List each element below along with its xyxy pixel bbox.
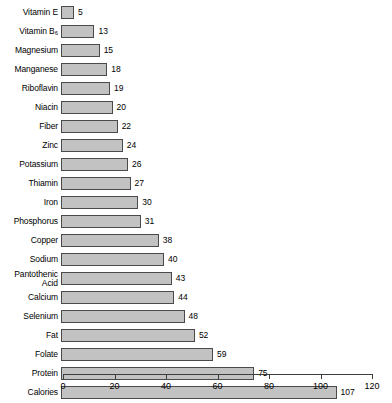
- chart-row: Fiber22: [0, 117, 392, 136]
- chart-row: Niacin20: [0, 98, 392, 117]
- category-label: Phosphorus: [0, 217, 61, 226]
- bar-track: 19: [61, 79, 392, 98]
- x-axis-tick-label: 80: [264, 381, 274, 391]
- bar-track: 18: [61, 60, 392, 79]
- bar-value-label: 19: [110, 82, 123, 95]
- bar-track: 48: [61, 307, 392, 326]
- bar-track: 20: [61, 98, 392, 117]
- bar-value-label: 59: [213, 348, 226, 361]
- category-label: Zinc: [0, 141, 61, 150]
- chart-row: Zinc24: [0, 136, 392, 155]
- chart-row: Thiamin27: [0, 174, 392, 193]
- category-label: Calories: [0, 388, 61, 397]
- bar-track: 43: [61, 269, 392, 288]
- bar-track: 27: [61, 174, 392, 193]
- bar-value-label: 107: [337, 386, 355, 399]
- bar-value-label: 24: [123, 139, 136, 152]
- bar-value-label: 20: [113, 101, 126, 114]
- category-label: Riboflavin: [0, 84, 61, 93]
- category-label: Protein: [0, 369, 61, 378]
- bar: [61, 196, 138, 209]
- chart-row: Sodium40: [0, 250, 392, 269]
- category-label: Copper: [0, 236, 61, 245]
- x-axis-tick-label: 100: [313, 381, 328, 391]
- bar-value-label: 52: [195, 329, 208, 342]
- bar-track: 59: [61, 345, 392, 364]
- category-label: Fiber: [0, 122, 61, 131]
- category-label: Calcium: [0, 293, 61, 302]
- bar-value-label: 22: [118, 120, 131, 133]
- chart-row: Selenium48: [0, 307, 392, 326]
- bar-value-label: 48: [185, 310, 198, 323]
- bar: [61, 139, 123, 152]
- bar-track: 52: [61, 326, 392, 345]
- category-label: Niacin: [0, 103, 61, 112]
- bar-value-label: 5: [74, 6, 83, 19]
- chart-row: Iron30: [0, 193, 392, 212]
- x-axis-tick-label: 120: [364, 381, 379, 391]
- bar-track: 31: [61, 212, 392, 231]
- bar-track: 44: [61, 288, 392, 307]
- category-label: Sodium: [0, 255, 61, 264]
- category-label: Thiamin: [0, 179, 61, 188]
- bar: [61, 158, 128, 171]
- category-label: Pantothenic Acid: [0, 270, 61, 288]
- bar-value-label: 40: [164, 253, 177, 266]
- category-label: Iron: [0, 198, 61, 207]
- chart-rows: Vitamin E5Vitamin B₆13Magnesium15Mangane…: [0, 3, 392, 402]
- bar: [61, 215, 141, 228]
- x-axis-tick: [63, 374, 64, 379]
- bar: [61, 386, 337, 399]
- bar: [61, 329, 195, 342]
- bar: [61, 272, 172, 285]
- bar-value-label: 43: [172, 272, 185, 285]
- bar: [61, 82, 110, 95]
- bar-value-label: 27: [131, 177, 144, 190]
- bar-track: 15: [61, 41, 392, 60]
- chart-row: Magnesium15: [0, 41, 392, 60]
- x-axis-tick: [269, 374, 270, 379]
- bar: [61, 253, 164, 266]
- x-axis-tick: [166, 374, 167, 379]
- category-label: Magnesium: [0, 46, 61, 55]
- bar: [61, 348, 213, 361]
- chart-row: Phosphorus31: [0, 212, 392, 231]
- chart-row: Calories107: [0, 383, 392, 402]
- bar-track: 24: [61, 136, 392, 155]
- bar: [61, 6, 74, 19]
- chart-row: Pantothenic Acid43: [0, 269, 392, 288]
- bar-value-label: 30: [138, 196, 151, 209]
- horizontal-bar-chart: Vitamin E5Vitamin B₆13Magnesium15Mangane…: [0, 0, 392, 403]
- bar-value-label: 18: [107, 63, 120, 76]
- bar-track: 26: [61, 155, 392, 174]
- bar-value-label: 26: [128, 158, 141, 171]
- bar-track: 38: [61, 231, 392, 250]
- chart-row: Folate59: [0, 345, 392, 364]
- category-label: Folate: [0, 350, 61, 359]
- bar: [61, 177, 131, 190]
- bar-value-label: 38: [159, 234, 172, 247]
- category-label: Fat: [0, 331, 61, 340]
- bar: [61, 25, 94, 38]
- category-label: Vitamin B₆: [0, 27, 61, 36]
- category-label: Vitamin E: [0, 8, 61, 17]
- bar: [61, 63, 107, 76]
- chart-row: Calcium44: [0, 288, 392, 307]
- bar: [61, 101, 113, 114]
- chart-row: Manganese18: [0, 60, 392, 79]
- chart-row: Vitamin E5: [0, 3, 392, 22]
- chart-row: Fat52: [0, 326, 392, 345]
- bar-track: 13: [61, 22, 392, 41]
- category-label: Manganese: [0, 65, 61, 74]
- category-label: Selenium: [0, 312, 61, 321]
- x-axis-tick-label: 40: [161, 381, 171, 391]
- x-axis: 020406080100120: [63, 374, 372, 375]
- category-label: Potassium: [0, 160, 61, 169]
- bar: [61, 291, 174, 304]
- x-axis-tick: [372, 374, 373, 379]
- bar-value-label: 15: [100, 44, 113, 57]
- bar: [61, 310, 185, 323]
- chart-row: Vitamin B₆13: [0, 22, 392, 41]
- bar-track: 5: [61, 3, 392, 22]
- bar-value-label: 31: [141, 215, 154, 228]
